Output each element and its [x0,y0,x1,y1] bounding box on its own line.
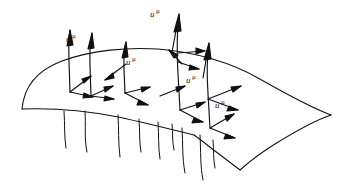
tangent-arrow-head [227,106,238,111]
tangent-arrow-head [141,87,150,92]
four-velocity-symbol: u [66,34,71,44]
tangent-arrow-head [105,73,114,80]
worldline [85,111,87,152]
worldline [213,140,215,168]
worldline [139,119,141,152]
four-velocity-label: uμ [215,99,225,110]
worldline [172,124,174,150]
vector-frame-group [67,14,241,139]
surface-right-edge [240,115,331,170]
worldline [64,111,66,148]
four-velocity-index: μ [192,73,196,81]
worldline [182,128,185,173]
four-velocity-label: uμ [126,56,136,67]
worldline [118,115,120,157]
four-velocity-index: μ [132,55,136,63]
four-velocity-index: μ [221,98,225,106]
surface-front-edge [22,109,194,135]
tangent-arrow-head [82,76,91,83]
four-velocity-symbol: u [186,75,191,85]
tangent-arrow-head [176,86,185,92]
tangent-arrow-head [196,48,205,54]
worldline [158,122,160,159]
tangent-arrow-head [137,100,148,105]
diagram-canvas [0,0,343,189]
tangent-arrow-head [231,86,241,92]
four-velocity-symbol: u [215,100,220,110]
physics-diagram-spacelike-hypersurface: uμ uμ uμ uμ uμ [0,0,343,189]
four-velocity-label: uμ [150,8,160,19]
four-velocity-index: μ [72,32,76,40]
four-velocity-label: uμ [66,33,76,44]
tangent-arrow-head [224,134,235,139]
four-velocity-label: uμ [186,74,196,85]
tangent-arrow-head [189,65,199,70]
four-velocity-symbol: u [126,57,131,67]
four-velocity-arrow-head [88,33,94,49]
vector-frame [122,42,150,105]
tangent-arrow-head [225,114,234,121]
surface-outline [22,48,331,170]
four-velocity-index: μ [156,7,160,15]
four-velocity-symbol: u [150,9,155,19]
vector-frame [88,33,114,101]
tangent-arrow-head [104,96,114,101]
tangent-arrow-head [104,86,113,92]
tangent-arrow-head [196,102,205,108]
vector-frame [172,14,205,123]
vector-frame [203,43,241,139]
